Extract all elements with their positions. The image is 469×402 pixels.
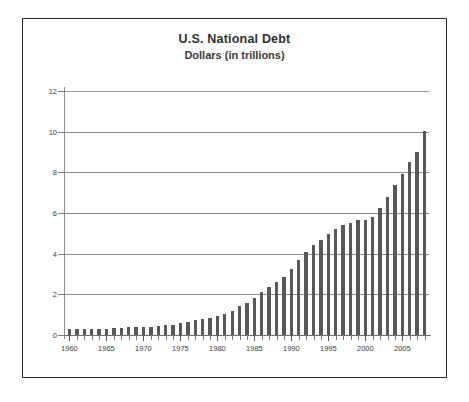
- bar: [157, 326, 160, 335]
- screenshot-page: U.S. National Debt Dollars (in trillions…: [0, 0, 469, 402]
- bar: [238, 306, 241, 335]
- x-axis-tick-label: 1995: [320, 344, 337, 353]
- y-axis-tick-label: 10: [35, 127, 57, 136]
- y-axis-tick: [58, 213, 65, 214]
- y-axis-tick-label: 8: [35, 168, 57, 177]
- bar: [231, 311, 234, 335]
- bar: [194, 320, 197, 335]
- x-axis-tick-label: 2005: [394, 344, 411, 353]
- x-axis-tick-label: 1965: [98, 344, 115, 353]
- bar: [356, 220, 359, 335]
- bar: [364, 220, 367, 335]
- y-axis-tick: [58, 91, 65, 92]
- bar: [245, 303, 248, 335]
- bar: [393, 185, 396, 335]
- bar: [223, 314, 226, 335]
- bar: [275, 282, 278, 335]
- y-axis-tick-label: 4: [35, 249, 57, 258]
- plot-inner: 024681012 196019651970197519801985199019…: [65, 91, 429, 335]
- bar: [112, 328, 115, 335]
- bar: [319, 240, 322, 335]
- bar: [142, 327, 145, 335]
- bar: [120, 328, 123, 335]
- bar: [127, 327, 130, 335]
- bar: [297, 260, 300, 335]
- bar: [371, 217, 374, 335]
- x-axis-tick-label: 1975: [172, 344, 189, 353]
- x-axis-tick-label: 1960: [61, 344, 78, 353]
- bar: [216, 316, 219, 335]
- bar: [423, 131, 426, 335]
- y-axis-tick-label: 6: [35, 209, 57, 218]
- bar: [164, 325, 167, 335]
- y-axis-tick-label: 12: [35, 87, 57, 96]
- bar: [312, 245, 315, 335]
- bar: [290, 269, 293, 335]
- y-axis-tick: [58, 132, 65, 133]
- x-axis-tick-label: 1980: [209, 344, 226, 353]
- bar: [171, 325, 174, 335]
- bar: [179, 323, 182, 335]
- y-axis-tick-label: 2: [35, 290, 57, 299]
- bar: [349, 223, 352, 335]
- bar: [208, 318, 211, 335]
- y-axis-tick: [58, 172, 65, 173]
- chart-title: U.S. National Debt: [23, 32, 446, 46]
- bar: [327, 234, 330, 335]
- plot-area: 024681012 196019651970197519801985199019…: [65, 91, 429, 335]
- y-axis-tick-label: 0: [35, 331, 57, 340]
- x-axis-tick-label: 1970: [135, 344, 152, 353]
- bar: [378, 208, 381, 335]
- y-axis-tick: [58, 335, 65, 336]
- x-axis-tick-label: 2000: [357, 344, 374, 353]
- bar: [386, 197, 389, 335]
- bar: [134, 327, 137, 335]
- bar: [253, 298, 256, 335]
- y-axis-tick: [58, 294, 65, 295]
- chart-subtitle: Dollars (in trillions): [23, 49, 446, 61]
- y-axis-tick: [58, 254, 65, 255]
- x-axis-labels: 1960196519701975198019851990199520002005: [65, 335, 429, 351]
- bar-series: [65, 91, 429, 335]
- bar: [201, 319, 204, 335]
- bar: [415, 152, 418, 335]
- x-axis-tick-label: 1990: [283, 344, 300, 353]
- bar: [408, 162, 411, 335]
- bar: [304, 252, 307, 335]
- x-axis-tick-label: 1985: [246, 344, 263, 353]
- bar: [149, 327, 152, 335]
- bar: [401, 174, 404, 335]
- bar: [341, 225, 344, 335]
- bar: [186, 322, 189, 335]
- chart-figure-frame: U.S. National Debt Dollars (in trillions…: [22, 18, 447, 378]
- bar: [282, 277, 285, 335]
- bar: [260, 292, 263, 335]
- bar: [334, 229, 337, 335]
- bar: [267, 287, 270, 335]
